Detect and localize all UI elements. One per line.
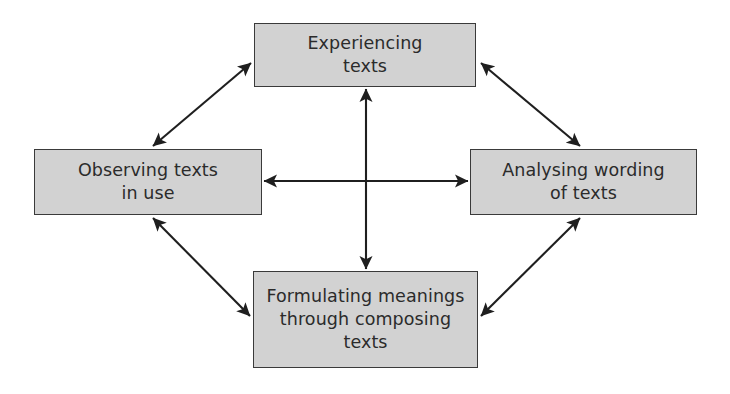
node-analysing-wording: Analysing wording of texts xyxy=(470,149,697,215)
node-observing-texts-label: Observing texts in use xyxy=(72,159,224,205)
node-observing-texts: Observing texts in use xyxy=(34,149,262,215)
node-experiencing-texts-label: Experiencing texts xyxy=(301,32,428,78)
node-analysing-wording-label: Analysing wording of texts xyxy=(496,159,671,205)
node-formulating-meanings-label: Formulating meanings through composing t… xyxy=(260,285,470,353)
connector-experiencing-observing xyxy=(153,63,251,146)
connector-experiencing-analysing xyxy=(481,63,580,146)
diagram-canvas: Experiencing texts Observing texts in us… xyxy=(0,0,730,394)
node-experiencing-texts: Experiencing texts xyxy=(254,23,476,87)
node-formulating-meanings: Formulating meanings through composing t… xyxy=(253,271,478,368)
connector-observing-formulating xyxy=(153,218,250,316)
connector-analysing-formulating xyxy=(481,218,580,316)
